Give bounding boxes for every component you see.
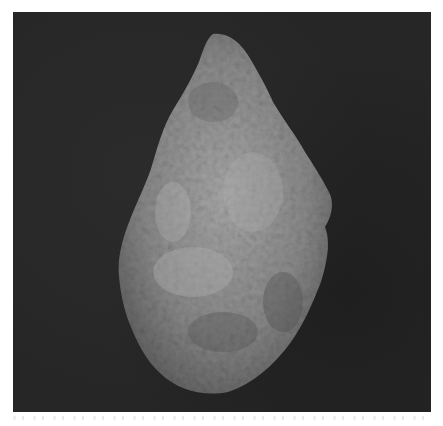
stone-artifact [13, 12, 431, 412]
scan-artifact-strip [13, 416, 431, 420]
photograph [13, 12, 431, 412]
